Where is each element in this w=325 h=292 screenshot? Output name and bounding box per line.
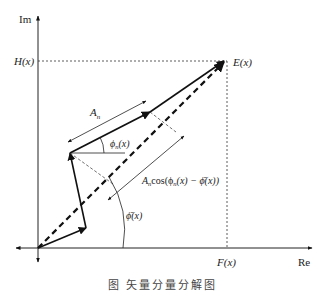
projection-perp-1	[70, 153, 113, 184]
figure-caption: 图 矢量分量分解图	[0, 276, 325, 292]
f-label: F(x)	[216, 256, 236, 269]
h-label: H(x)	[13, 55, 34, 68]
y-axis-label: Im	[19, 13, 32, 25]
x-axis-label: Re	[298, 256, 310, 268]
projection-length-label: Ancos(ϕn(x) − ϕ̄(x))	[141, 175, 220, 187]
phase-arc	[100, 137, 104, 153]
vector-2	[70, 153, 86, 228]
amplitude-dimension-arrow	[68, 101, 146, 142]
vector-1	[38, 228, 86, 248]
projection-perp-2	[150, 112, 176, 132]
vector-4	[150, 61, 224, 112]
amplitude-label: An	[89, 106, 101, 121]
phase-label: ϕn(x)	[110, 138, 130, 150]
mean-phase-label: ϕ̄(x)	[126, 210, 143, 222]
e-label: E(x)	[232, 56, 252, 69]
